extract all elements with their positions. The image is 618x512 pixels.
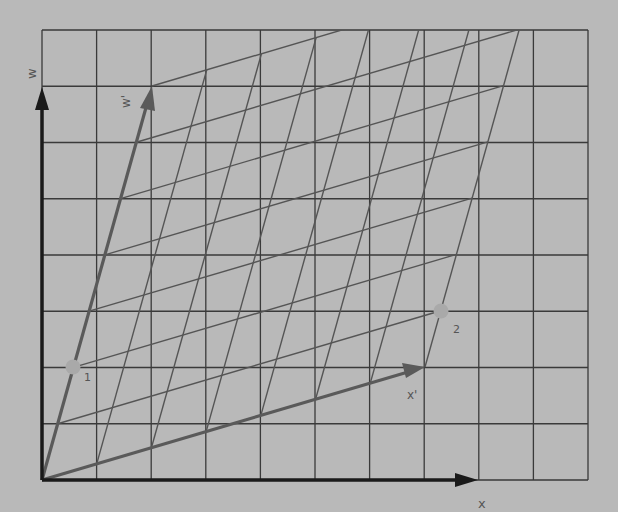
skew-line-parallel-w-prime — [261, 21, 371, 415]
x-prime-vector — [42, 363, 425, 480]
skew-line-parallel-x-prime — [152, 0, 535, 86]
w-prime-label: w' — [119, 95, 133, 108]
skewed-grid — [58, 0, 535, 464]
point-2-label: 2 — [453, 323, 460, 336]
point-1-label: 1 — [84, 371, 91, 384]
w-prime-vector — [42, 86, 155, 480]
w-axis — [35, 87, 49, 480]
w-axis-label: w — [24, 68, 39, 79]
spacetime-diagram: x w x' w' 1 2 — [0, 0, 618, 512]
x-prime-label: x' — [407, 388, 417, 402]
skew-line-parallel-w-prime — [316, 5, 426, 399]
x-axis-label: x — [478, 496, 486, 511]
skew-line-parallel-w-prime — [206, 38, 316, 432]
